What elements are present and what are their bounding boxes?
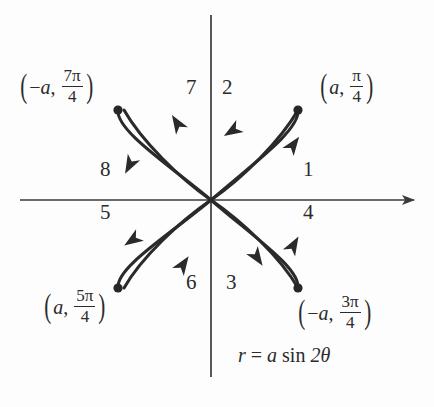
coord-sign: −: [29, 77, 40, 97]
arrowhead-segment-3: [246, 246, 268, 270]
fraction-denominator: 4: [340, 313, 361, 332]
fraction-denominator: 4: [350, 87, 363, 106]
coord-fraction: π4: [350, 67, 363, 106]
coord-comma: ,: [329, 303, 339, 323]
paren-close: ): [86, 69, 93, 103]
arrowhead-segment-8: [119, 154, 140, 177]
petal-upper-right-outer-arc: [211, 110, 298, 200]
curve-equation: r = a sin 2θ: [238, 345, 330, 365]
petal-tip-dot-lower-right: [293, 283, 302, 292]
arrowhead-segment-7: [166, 111, 188, 135]
arrowhead-segment-2: [220, 120, 244, 142]
segment-number-3: 3: [226, 272, 237, 293]
segment-number-6: 6: [186, 272, 197, 293]
coord-sign: −: [307, 303, 318, 323]
paren-close: ): [99, 289, 106, 323]
coordinate-label-upper-right: (a, π4): [318, 68, 375, 107]
paren-open: (: [44, 289, 51, 323]
paren-open: (: [320, 69, 327, 103]
paren-open: (: [20, 69, 27, 103]
segment-number-1: 1: [303, 159, 314, 180]
petal-tip-dot-lower-left: [113, 283, 122, 292]
arrowhead-segment-4: [283, 233, 305, 256]
rose-curve-group: [118, 110, 298, 288]
coord-fraction: 7π4: [62, 67, 83, 106]
equation-argument: 2θ: [310, 344, 330, 366]
fraction-denominator: 4: [62, 87, 83, 106]
coord-comma: ,: [339, 77, 349, 97]
equation-function: sin: [282, 344, 305, 366]
equation-amplitude: a: [267, 344, 277, 366]
paren-close: ): [364, 295, 371, 329]
coord-comma: ,: [63, 297, 73, 317]
segment-number-5: 5: [100, 202, 111, 223]
segment-number-8: 8: [100, 159, 111, 180]
coord-variable: a: [319, 303, 329, 323]
petal-tip-dot-upper-right: [293, 105, 302, 114]
petal-lower-right-outer-arc: [211, 200, 298, 288]
rose-curve-svg: [0, 0, 434, 407]
arrowhead-segment-5: [120, 229, 144, 251]
segment-number-2: 2: [222, 77, 233, 98]
coordinate-label-lower-left: (a, 5π4): [42, 288, 108, 327]
petal-lower-right-inner-arc: [211, 200, 298, 288]
coordinate-label-upper-left: (−a, 7π4): [18, 68, 95, 107]
equation-lhs: r: [238, 344, 246, 366]
coord-comma: ,: [51, 77, 61, 97]
coord-variable: a: [53, 297, 63, 317]
fraction-numerator: π: [350, 67, 363, 87]
segment-number-7: 7: [186, 77, 197, 98]
segment-number-4: 4: [303, 202, 314, 223]
petal-tip-dot-upper-left: [113, 105, 122, 114]
polar-rose-figure: 1 2 3 4 5 6 7 8 (−a, 7π4) (a, π4) (a, 5π…: [0, 0, 434, 407]
equation-eq-sign: =: [251, 344, 262, 366]
coord-variable: a: [329, 77, 339, 97]
coord-variable: a: [41, 77, 51, 97]
petal-lower-left-inner-arc: [124, 200, 211, 288]
fraction-denominator: 4: [74, 307, 95, 326]
fraction-numerator: 5π: [74, 287, 95, 307]
paren-close: ): [366, 69, 373, 103]
paren-open: (: [298, 295, 305, 329]
coord-fraction: 5π4: [74, 287, 95, 326]
petal-upper-left-inner-arc: [124, 110, 211, 200]
coordinate-label-lower-right: (−a, 3π4): [296, 294, 373, 333]
fraction-numerator: 7π: [62, 67, 83, 87]
fraction-numerator: 3π: [340, 293, 361, 313]
petal-upper-right-inner-arc: [211, 110, 298, 200]
coord-fraction: 3π4: [340, 293, 361, 332]
